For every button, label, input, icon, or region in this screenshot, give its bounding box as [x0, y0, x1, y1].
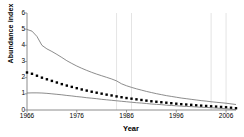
data-point-marker: [175, 102, 177, 104]
data-point-marker: [150, 100, 152, 102]
data-point-marker: [145, 99, 147, 101]
data-point-marker: [235, 107, 237, 109]
data-point-marker: [205, 105, 207, 107]
y-tick-label: 2: [9, 74, 25, 81]
data-point-marker: [105, 93, 107, 95]
data-point-marker: [160, 101, 162, 103]
data-point-marker: [200, 104, 202, 106]
data-point-marker: [190, 104, 192, 106]
x-axis-title: Year: [26, 124, 236, 133]
y-tick-label: 4: [9, 42, 25, 49]
y-axis-tick-labels: 0123456: [6, 13, 25, 110]
data-point-marker: [31, 73, 33, 75]
data-point-marker: [220, 106, 222, 108]
x-tick-label: 2006: [211, 113, 241, 120]
data-point-marker: [41, 76, 43, 78]
data-point-marker: [81, 88, 83, 90]
data-point-marker: [230, 107, 232, 109]
data-point-marker: [135, 98, 137, 100]
abundance-index-chart: Abundance index 0123456 1966197619861996…: [0, 0, 244, 137]
data-point-marker: [165, 102, 167, 104]
data-point-marker: [170, 102, 172, 104]
data-point-marker: [125, 97, 127, 99]
data-point-marker: [130, 97, 132, 99]
data-point-marker: [46, 78, 48, 80]
data-point-marker: [90, 91, 92, 93]
data-point-marker: [215, 105, 217, 107]
y-tick-label: 3: [9, 58, 25, 65]
x-tick-label: 1976: [62, 113, 92, 120]
data-point-marker: [115, 95, 117, 97]
x-tick-label: 1986: [112, 113, 142, 120]
plot-svg: [27, 13, 236, 110]
data-point-marker: [210, 105, 212, 107]
data-point-marker: [56, 81, 58, 83]
data-point-marker: [61, 83, 63, 85]
data-point-marker: [140, 99, 142, 101]
data-point-marker: [110, 94, 112, 96]
data-point-marker: [95, 92, 97, 94]
data-point-marker: [180, 103, 182, 105]
x-axis-tick-labels: 19661976198619962006: [27, 113, 236, 123]
data-point-marker: [26, 71, 28, 73]
data-point-marker: [195, 104, 197, 106]
y-tick-label: 6: [9, 10, 25, 17]
data-point-marker: [66, 84, 68, 86]
x-tick-label: 1966: [12, 113, 42, 120]
data-point-marker: [155, 101, 157, 103]
data-point-marker: [225, 106, 227, 108]
plot-area: [27, 13, 236, 110]
data-point-marker: [36, 75, 38, 77]
data-point-marker: [76, 87, 78, 89]
y-tick-label: 1: [9, 90, 25, 97]
data-point-marker: [86, 89, 88, 91]
data-point-marker: [71, 86, 73, 88]
data-point-marker: [185, 103, 187, 105]
data-point-marker: [120, 96, 122, 98]
x-tick-label: 1996: [161, 113, 191, 120]
y-tick-label: 5: [9, 26, 25, 33]
data-point-marker: [51, 80, 53, 82]
data-point-marker: [100, 92, 102, 94]
